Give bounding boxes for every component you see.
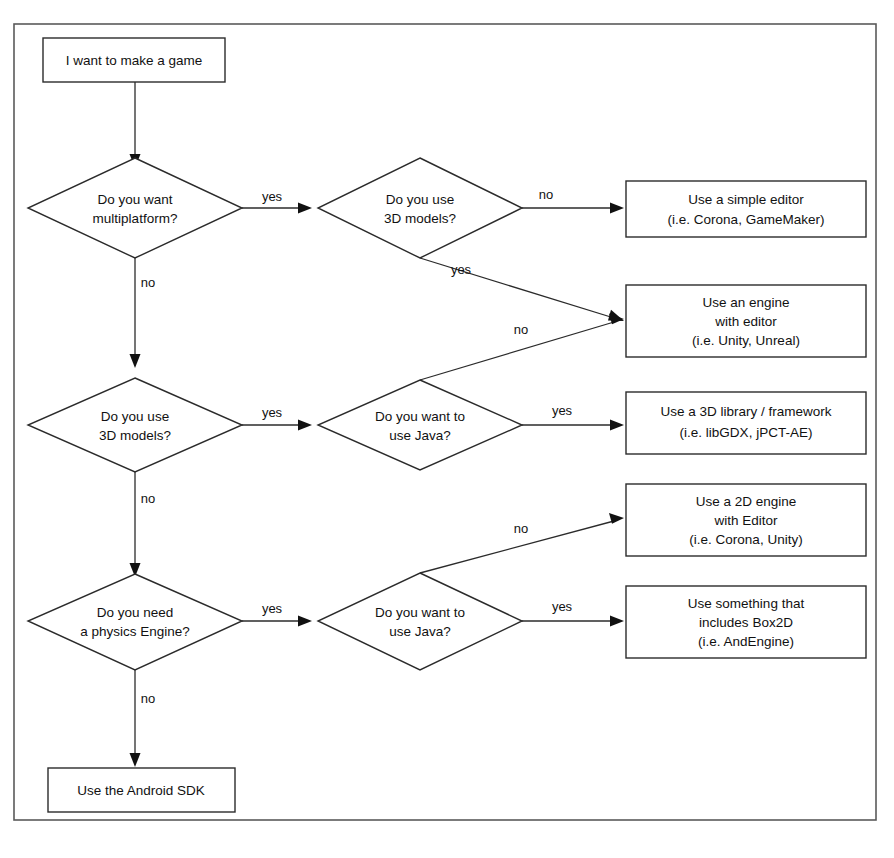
edge-label-java-mid-yes: yes	[552, 403, 573, 418]
edge-3d-top-no: no	[522, 187, 624, 213]
node-box2d-line3: (i.e. AndEngine)	[698, 634, 794, 649]
edge-java-mid-yes: yes	[522, 403, 624, 430]
node-result-simple-editor[interactable]: Use a simple editor (i.e. Corona, GameMa…	[626, 181, 866, 237]
node-result-2d-engine[interactable]: Use a 2D engine with Editor (i.e. Corona…	[626, 484, 866, 556]
edge-label-java-mid-no: no	[514, 322, 528, 337]
node-result-box2d[interactable]: Use something that includes Box2D (i.e. …	[626, 586, 866, 658]
node-3d-mid-line2: 3D models?	[99, 428, 171, 443]
edge-label-java-bottom-no: no	[514, 521, 528, 536]
node-result-3d-library[interactable]: Use a 3D library / framework (i.e. libGD…	[626, 392, 866, 454]
node-start-label: I want to make a game	[66, 53, 203, 68]
flowchart-svg: yes no no yes no yes	[0, 0, 894, 858]
edge-label-java-bottom-yes: yes	[552, 599, 573, 614]
edge-label-physics-no: no	[141, 691, 155, 706]
node-3d-library-line1: Use a 3D library / framework	[660, 404, 831, 419]
edge-3d-top-yes: yes	[420, 258, 624, 321]
node-decision-java-mid[interactable]: Do you want to use Java?	[318, 380, 522, 470]
node-decision-3d-models-top[interactable]: Do you use 3D models?	[318, 158, 522, 258]
node-2d-engine-line3: (i.e. Corona, Unity)	[689, 532, 802, 547]
node-physics-line2: a physics Engine?	[80, 624, 190, 639]
node-engine-editor-line1: Use an engine	[702, 295, 789, 310]
node-decision-multiplatform[interactable]: Do you want multiplatform?	[28, 158, 242, 258]
edge-label-3d-top-no: no	[539, 187, 553, 202]
edge-label-multiplatform-no: no	[141, 275, 155, 290]
node-decision-physics-engine[interactable]: Do you need a physics Engine?	[28, 574, 242, 670]
node-engine-editor-line2: with editor	[714, 314, 777, 329]
node-3d-mid-line1: Do you use	[101, 409, 169, 424]
edge-multiplatform-yes: yes	[242, 189, 312, 213]
edge-physics-no: no	[130, 670, 156, 767]
node-multiplatform-line2: multiplatform?	[93, 211, 178, 226]
node-decision-3d-models-mid[interactable]: Do you use 3D models?	[28, 378, 242, 472]
edge-label-3d-top-yes: yes	[451, 262, 472, 277]
edge-java-bottom-no: no	[420, 513, 624, 573]
node-box2d-line2: includes Box2D	[699, 615, 793, 630]
edge-physics-yes: yes	[242, 601, 312, 626]
node-multiplatform-line1: Do you want	[97, 192, 172, 207]
edge-label-multiplatform-yes: yes	[262, 189, 283, 204]
edge-java-mid-no: no	[420, 314, 624, 381]
node-java-bottom-line1: Do you want to	[375, 605, 465, 620]
node-2d-engine-line2: with Editor	[713, 513, 778, 528]
node-simple-editor-line2: (i.e. Corona, GameMaker)	[668, 212, 825, 227]
node-3d-library-line2: (i.e. libGDX, jPCT-AE)	[680, 425, 813, 440]
node-decision-java-bottom[interactable]: Do you want to use Java?	[318, 573, 522, 670]
node-java-mid-line1: Do you want to	[375, 409, 465, 424]
node-android-sdk-label: Use the Android SDK	[77, 783, 205, 798]
edge-3d-mid-yes: yes	[242, 405, 312, 430]
edge-3d-mid-no: no	[130, 472, 156, 577]
node-java-bottom-line2: use Java?	[389, 624, 451, 639]
edge-label-3d-mid-yes: yes	[262, 405, 283, 420]
node-2d-engine-line1: Use a 2D engine	[696, 494, 797, 509]
node-box2d-line1: Use something that	[688, 596, 805, 611]
flowchart-canvas: yes no no yes no yes	[0, 0, 894, 858]
node-simple-editor-line1: Use a simple editor	[688, 192, 804, 207]
node-engine-editor-line3: (i.e. Unity, Unreal)	[692, 333, 800, 348]
node-result-engine-with-editor[interactable]: Use an engine with editor (i.e. Unity, U…	[626, 285, 866, 357]
node-java-mid-line2: use Java?	[389, 428, 451, 443]
node-result-android-sdk[interactable]: Use the Android SDK	[48, 768, 235, 812]
node-physics-line1: Do you need	[97, 605, 174, 620]
node-start[interactable]: I want to make a game	[43, 38, 225, 82]
node-3d-top-line1: Do you use	[386, 192, 454, 207]
edge-start-to-multiplatform	[130, 82, 141, 168]
node-3d-top-line2: 3D models?	[384, 211, 456, 226]
edge-label-3d-mid-no: no	[141, 491, 155, 506]
edge-java-bottom-yes: yes	[522, 599, 624, 626]
edge-multiplatform-no: no	[130, 258, 156, 368]
edge-label-physics-yes: yes	[262, 601, 283, 616]
